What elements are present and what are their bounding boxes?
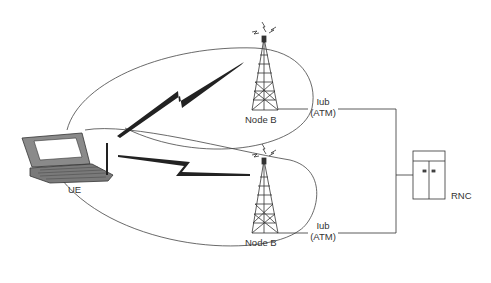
ue-laptop-icon [22,133,113,183]
iub-top-line2: (ATM) [308,107,338,118]
rnc-label: RNC [451,190,472,201]
node-b-top-label: Node B [245,114,277,125]
iub-bottom-label: Iub (ATM) [308,220,338,242]
radio-link-bolt-top [117,62,244,138]
iub-top-label: Iub (ATM) [308,96,338,118]
radio-link-bolt-bottom [118,155,250,176]
node-b-bottom-label: Node B [245,237,277,248]
iub-top-line1: Iub [308,96,338,107]
iub-bottom-line1: Iub [308,220,338,231]
coverage-area-bottom [62,129,317,246]
ue-label: UE [68,184,81,195]
iub-bottom-line2: (ATM) [308,231,338,242]
node-b-top-tower-icon [252,22,278,110]
rnc-cabinet-icon [413,151,445,199]
